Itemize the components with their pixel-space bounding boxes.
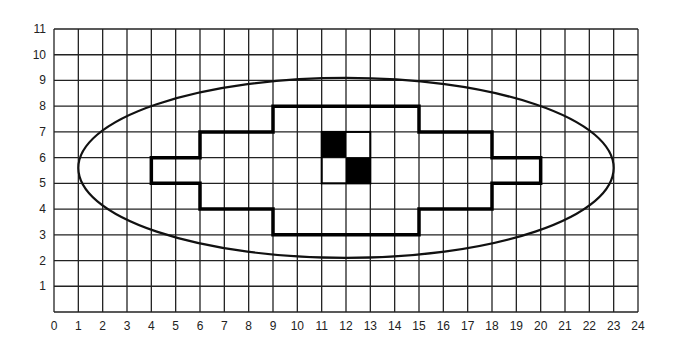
y-tick-label: 1 (39, 279, 46, 293)
y-tick-label: 7 (39, 125, 46, 139)
x-tick-label: 13 (364, 319, 378, 333)
x-tick-label: 17 (461, 319, 475, 333)
y-tick-label: 4 (39, 202, 46, 216)
x-tick-label: 20 (534, 319, 548, 333)
y-tick-label: 9 (39, 73, 46, 87)
x-tick-label: 6 (197, 319, 204, 333)
x-tick-label: 8 (245, 319, 252, 333)
x-tick-label: 12 (339, 319, 353, 333)
y-axis-labels: 1234567891011 (33, 22, 47, 293)
x-tick-label: 18 (485, 319, 499, 333)
x-tick-label: 14 (388, 319, 402, 333)
x-tick-label: 16 (437, 319, 451, 333)
x-tick-label: 15 (412, 319, 426, 333)
y-tick-label: 6 (39, 151, 46, 165)
x-tick-label: 1 (75, 319, 82, 333)
x-tick-label: 4 (148, 319, 155, 333)
x-tick-label: 5 (172, 319, 179, 333)
x-axis-labels: 0123456789101112131415161718192021222324 (51, 319, 645, 333)
x-tick-label: 3 (124, 319, 131, 333)
x-tick-label: 7 (221, 319, 228, 333)
x-tick-label: 11 (315, 319, 328, 333)
x-tick-label: 21 (558, 319, 572, 333)
y-tick-label: 8 (39, 99, 46, 113)
x-tick-label: 2 (99, 319, 106, 333)
x-tick-label: 9 (270, 319, 277, 333)
y-tick-label: 3 (39, 228, 46, 242)
y-tick-label: 10 (33, 48, 47, 62)
x-tick-label: 0 (51, 319, 58, 333)
x-tick-label: 19 (510, 319, 524, 333)
x-tick-label: 22 (583, 319, 597, 333)
grid-diagram: 1234567891011 01234567891011121314151617… (0, 0, 678, 347)
filled-cell (346, 158, 370, 184)
x-tick-label: 23 (607, 319, 621, 333)
x-tick-label: 24 (631, 319, 645, 333)
y-tick-label: 2 (39, 254, 46, 268)
x-tick-label: 10 (291, 319, 305, 333)
filled-cell (322, 132, 346, 158)
y-tick-label: 11 (34, 22, 47, 36)
y-tick-label: 5 (39, 176, 46, 190)
